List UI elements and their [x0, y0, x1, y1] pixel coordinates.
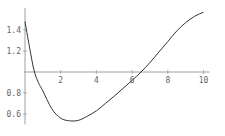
y-tick-label: 1.2 — [7, 47, 22, 56]
x-tick-label: 8 — [165, 76, 170, 85]
x-tick-label: 2 — [58, 76, 63, 85]
line-chart: 246810 0.60.81.21.4 — [0, 0, 225, 136]
y-axis-ticks: 0.60.81.21.4 — [7, 26, 27, 119]
series-group — [25, 12, 204, 121]
y-tick-label: 0.6 — [7, 110, 22, 119]
x-tick-label: 10 — [199, 76, 209, 85]
series-line — [25, 12, 204, 121]
y-tick-label: 1.4 — [7, 26, 22, 35]
x-tick-label: 4 — [94, 76, 99, 85]
y-tick-label: 0.8 — [7, 89, 22, 98]
